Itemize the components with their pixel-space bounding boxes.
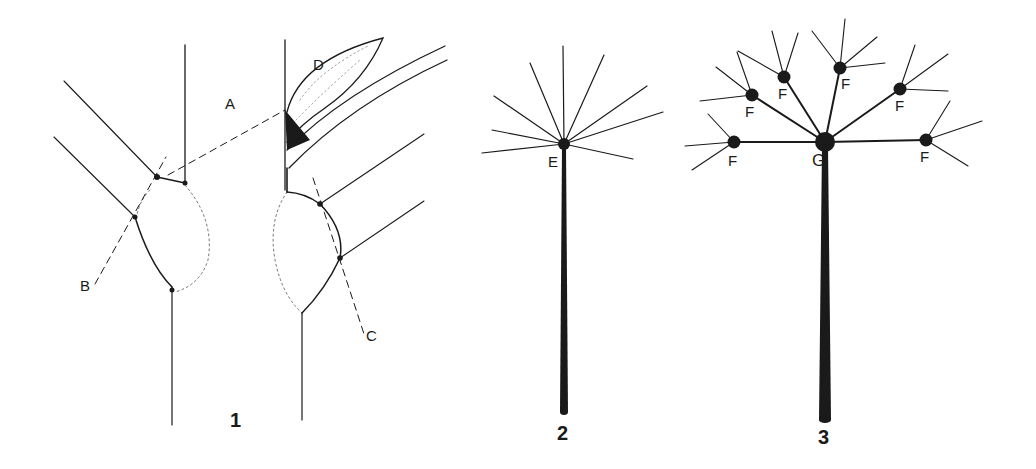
figure-1-right-node	[273, 38, 447, 420]
umbel-center-g	[815, 132, 835, 152]
figure-3-compound-umbel	[685, 19, 982, 423]
label-a: A	[225, 95, 235, 112]
label-f-1: F	[728, 152, 737, 169]
figure-1-leader-lines	[95, 110, 365, 337]
label-c: C	[366, 327, 377, 344]
label-g: G	[812, 151, 825, 170]
diagram-canvas: A B C D E G F F F F F F 1 2 3	[0, 0, 1036, 469]
figure-number-1: 1	[230, 409, 241, 431]
label-b: B	[80, 277, 90, 294]
figure-1-left-node	[54, 45, 209, 425]
figure-number-2: 2	[557, 422, 568, 444]
label-f-5: F	[895, 97, 904, 114]
label-e: E	[548, 153, 558, 170]
label-f-3: F	[778, 85, 787, 102]
umbel-center-e	[558, 138, 570, 150]
figure-number-3: 3	[818, 426, 829, 448]
label-f-4: F	[841, 75, 850, 92]
label-d: D	[313, 56, 324, 73]
figure-2-simple-umbel	[482, 46, 663, 415]
label-f-6: F	[920, 148, 929, 165]
label-f-2: F	[745, 103, 754, 120]
